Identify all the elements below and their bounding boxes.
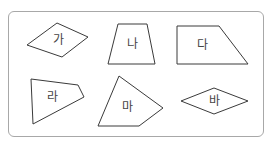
shape-ba: 바 — [181, 88, 248, 114]
shape-na: 나 — [108, 24, 155, 64]
shape-ra: 라 — [31, 79, 84, 124]
shape-ga-label: 가 — [53, 33, 64, 47]
shape-ma: 마 — [98, 76, 163, 126]
shape-ma-label: 마 — [122, 100, 133, 114]
shape-ga: 가 — [27, 23, 88, 57]
shape-da-label: 다 — [197, 38, 208, 52]
shape-da: 다 — [177, 26, 248, 64]
shape-ba-label: 바 — [209, 94, 220, 108]
shape-na-label: 나 — [127, 37, 138, 51]
shape-ra-outline — [31, 79, 84, 124]
shape-da-outline — [177, 26, 248, 64]
shapes-canvas: 가 나 다 라 마 바 — [0, 0, 273, 146]
shape-ra-label: 라 — [47, 90, 58, 104]
